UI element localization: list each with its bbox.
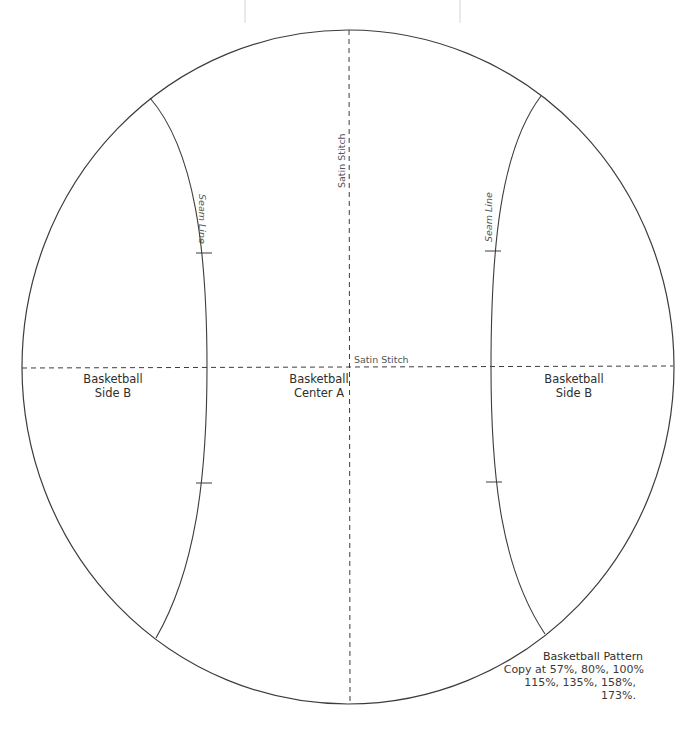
vertical-satin-stitch-label: Satin Stitch bbox=[336, 133, 347, 188]
right-seam-label: Seam Line bbox=[483, 192, 494, 242]
piece-label-right-line2: Side B bbox=[534, 386, 614, 400]
piece-label-center-line1: Basketball bbox=[279, 372, 359, 386]
copy-scales-line-1: Copy at 57%, 80%, 100% bbox=[500, 663, 650, 676]
piece-label-left-side-b: Basketball Side B bbox=[73, 372, 153, 400]
piece-label-left-line2: Side B bbox=[73, 386, 153, 400]
horizontal-satin-stitch-label: Satin Stitch bbox=[354, 353, 409, 367]
piece-label-right-line1: Basketball bbox=[534, 372, 614, 386]
pattern-title: Basketball Pattern bbox=[500, 650, 650, 663]
pattern-caption: Basketball Pattern Copy at 57%, 80%, 100… bbox=[500, 650, 650, 702]
copy-scales-line-2: 115%, 135%, 158%, 173%. bbox=[500, 676, 650, 702]
piece-label-center-line2: Center A bbox=[279, 386, 359, 400]
piece-label-right-side-b: Basketball Side B bbox=[534, 372, 614, 400]
left-seam-label: Seam Line bbox=[197, 194, 208, 244]
horizontal-satin-stitch-line bbox=[22, 366, 673, 368]
right-seam-line bbox=[491, 96, 545, 634]
piece-label-center-a: Basketball Center A bbox=[279, 372, 359, 400]
piece-label-left-line1: Basketball bbox=[73, 372, 153, 386]
basketball-pattern-diagram bbox=[0, 0, 694, 730]
